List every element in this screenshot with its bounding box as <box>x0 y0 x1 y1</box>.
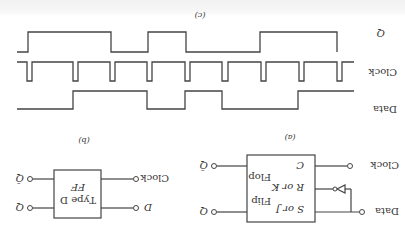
q-output-label: Q <box>200 206 208 217</box>
block-label-flop: Flop <box>248 172 271 183</box>
q-output-label-b: Q <box>16 202 24 213</box>
timing-diagram: (c) Q Clock Data <box>17 11 397 115</box>
clock-terminal-b <box>134 177 139 182</box>
qbar-terminal-b <box>28 177 33 182</box>
qbar-output-label: Q̄ <box>200 160 208 171</box>
clock-input-label: Clock <box>370 160 399 171</box>
panel-a-diagram: (a) S or J R or K C Flip Flop Data Clock… <box>200 133 399 222</box>
block-label-type-d: Type D <box>60 195 96 206</box>
clock-input-label-b: Clock <box>140 173 169 184</box>
clock-waveform <box>17 62 354 81</box>
flip-flop-figure: (c) Q Clock Data (a) S or J R or K C Fli… <box>0 0 405 242</box>
data-terminal <box>360 210 365 215</box>
figure-canvas: (c) Q Clock Data (a) S or J R or K C Fli… <box>0 0 405 242</box>
panel-b-diagram: (b) Type D FF D Clock Q Q̄ <box>16 136 169 218</box>
q-waveform <box>17 32 337 52</box>
d-terminal <box>134 206 139 211</box>
block-label-flip: Flip <box>251 196 271 207</box>
data-waveform <box>17 91 354 109</box>
q-terminal <box>212 210 217 215</box>
caption-c: (c) <box>195 11 206 20</box>
clock-terminal <box>348 164 353 169</box>
qbar-output-label-b: Q̄ <box>16 173 24 184</box>
caption-a: (a) <box>284 133 295 142</box>
data-input-label: Data <box>375 206 399 217</box>
d-input-label: D <box>144 202 153 213</box>
q-terminal-b <box>28 206 33 211</box>
signal-label-clock: Clock <box>368 67 397 78</box>
pin-s-label: S or J <box>275 204 304 215</box>
signal-label-data: Data <box>373 104 397 115</box>
block-label-ff: FF <box>70 182 86 193</box>
inverter-bubble <box>333 187 337 191</box>
signal-label-q: Q <box>377 28 385 39</box>
pin-r-label: R or K <box>271 182 305 193</box>
qbar-terminal <box>212 164 217 169</box>
caption-b: (b) <box>78 136 89 145</box>
type-d-block <box>54 170 101 218</box>
inverter-icon <box>337 185 345 193</box>
pin-c-label: C <box>296 160 304 171</box>
